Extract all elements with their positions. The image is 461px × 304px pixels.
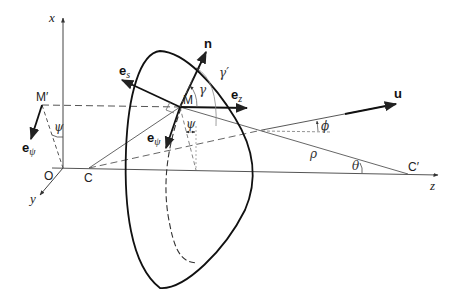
- z-axis: [52, 168, 438, 175]
- rho-label: ρ: [309, 147, 317, 161]
- origin-label: O: [44, 169, 53, 183]
- phi-angle-arc: [317, 121, 318, 131]
- gamma-label: γ: [199, 83, 207, 97]
- e-psi-label-m: eψ: [147, 130, 161, 147]
- inner-curve-dashed: [166, 108, 197, 263]
- n-label: n: [204, 36, 212, 51]
- phi-label: ϕ: [321, 119, 329, 133]
- x-axis-label: x: [48, 10, 55, 25]
- y-axis-label: y: [28, 191, 36, 206]
- point-cprime-label: C′: [408, 160, 420, 174]
- point-mprime-label: M′: [36, 90, 49, 104]
- e-s-label: es: [119, 63, 130, 80]
- point-m-label: M: [183, 93, 193, 107]
- u-label: u: [394, 86, 402, 101]
- z-axis-label: z: [429, 178, 435, 193]
- line-m-cprime: [180, 107, 408, 174]
- gamma-prime-angle-arc: [196, 68, 216, 126]
- geometry-diagram: x z y O M′ ψ eψ C u ϕ ρ θ C′ ψ: [0, 0, 461, 304]
- line-c-dashed: [89, 130, 262, 168]
- e-psi-vector-m: [166, 107, 180, 148]
- e-z-vector: [180, 107, 247, 108]
- u-vector: [345, 104, 396, 114]
- point-c-label: C: [84, 171, 93, 185]
- theta-angle-arc: [360, 163, 362, 173]
- projection-line-mprime-o: [42, 105, 63, 168]
- line-c-m: [89, 107, 180, 168]
- theta-label: θ: [352, 159, 360, 173]
- e-psi-label-mprime: eψ: [22, 140, 36, 157]
- e-z-label: ez: [231, 87, 242, 104]
- psi-label-m: ψ: [186, 117, 196, 131]
- e-psi-vector-mprime: [31, 105, 42, 139]
- gamma-prime-label: γ′: [219, 66, 229, 80]
- psi-angle-arc-mprime: [52, 135, 63, 137]
- psi-label-mprime: ψ: [54, 120, 64, 134]
